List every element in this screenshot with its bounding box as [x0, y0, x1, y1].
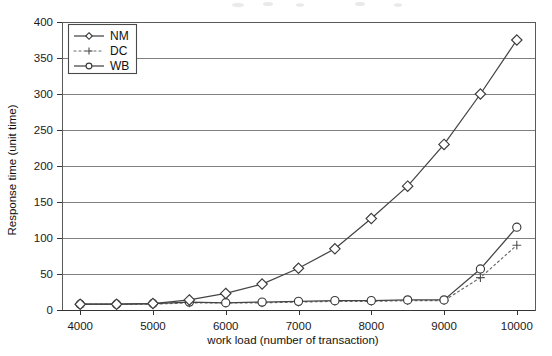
x-tick-label: 5000	[140, 320, 166, 332]
y-tick-label: 350	[34, 52, 53, 64]
y-axis-title: Response time (unit time)	[6, 104, 18, 235]
x-tick-label: 8000	[358, 320, 384, 332]
legend-label: NM	[110, 29, 129, 43]
x-tick-label: 6000	[213, 320, 239, 332]
x-tick-label: 7000	[286, 320, 312, 332]
y-tick-label: 100	[34, 232, 53, 244]
x-axis-title: work load (number of transaction)	[206, 334, 378, 346]
data-point-wb	[513, 223, 521, 231]
x-tick-label: 9000	[431, 320, 457, 332]
x-tick-label: 10000	[501, 320, 533, 332]
data-point-wb	[404, 296, 412, 304]
response-time-chart-figure: 40005000600070008000900010000 0501001502…	[0, 0, 552, 356]
y-tick-label: 50	[40, 268, 53, 280]
y-tick-label: 200	[34, 160, 53, 172]
chart-canvas: 40005000600070008000900010000 0501001502…	[0, 0, 552, 356]
y-tick-label: 400	[34, 16, 53, 28]
data-point-wb	[367, 297, 375, 305]
legend-label: WB	[110, 59, 129, 73]
legend-marker-circle	[86, 63, 92, 69]
y-tick-label: 0	[47, 304, 53, 316]
y-tick-label: 150	[34, 196, 53, 208]
legend-label: DC	[110, 44, 128, 58]
data-point-wb	[440, 296, 448, 304]
y-tick-label: 300	[34, 88, 53, 100]
y-tick-label: 250	[34, 124, 53, 136]
data-point-wb	[476, 265, 484, 273]
data-point-wb	[222, 299, 230, 307]
chart-legend: NMDCWB	[69, 25, 137, 74]
data-point-wb	[294, 297, 302, 305]
x-tick-label: 4000	[67, 320, 93, 332]
data-point-wb	[331, 297, 339, 305]
data-point-wb	[258, 298, 266, 306]
